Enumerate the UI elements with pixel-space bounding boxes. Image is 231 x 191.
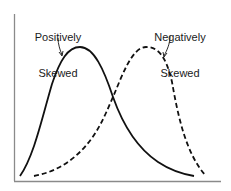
- positively-skewed-label: Positively Skewed: [22, 7, 94, 103]
- skewness-diagram: Positively Skewed Negatively Skewed: [0, 0, 231, 191]
- negatively-skewed-label: Negatively Skewed: [140, 7, 220, 103]
- positive-label-line1: Positively: [22, 31, 94, 43]
- negative-label-line2: Skewed: [140, 67, 220, 79]
- negative-label-line1: Negatively: [140, 31, 220, 43]
- positive-label-line2: Skewed: [22, 67, 94, 79]
